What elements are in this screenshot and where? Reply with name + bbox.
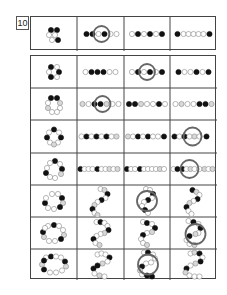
black-bead-icon — [44, 135, 49, 140]
white-bead-icon — [57, 161, 62, 166]
gray-bead-icon — [115, 166, 120, 171]
chain-option-cell[interactable] — [80, 96, 121, 112]
molecule-cell — [46, 64, 61, 79]
black-bead-icon — [132, 101, 137, 106]
molecule-cell — [45, 95, 62, 114]
white-bead-icon — [56, 130, 61, 135]
black-bead-icon — [156, 101, 161, 106]
chain-option-cell[interactable] — [137, 186, 157, 215]
white-bead-icon — [60, 227, 65, 232]
white-bead-icon — [130, 134, 135, 139]
white-bead-icon — [46, 238, 51, 243]
white-bead-icon — [187, 273, 192, 278]
chain-option-cell[interactable] — [138, 219, 157, 247]
chain-option-cell[interactable] — [173, 101, 214, 106]
white-bead-icon — [54, 74, 59, 79]
white-bead-icon — [56, 223, 61, 228]
gray-bead-icon — [192, 134, 197, 139]
black-bead-icon — [135, 31, 140, 36]
black-bead-icon — [95, 69, 100, 74]
chain-option-cell[interactable] — [78, 166, 120, 171]
white-bead-icon — [191, 101, 196, 106]
black-bead-icon — [194, 69, 199, 74]
gray-bead-icon — [80, 101, 85, 106]
white-bead-icon — [59, 268, 64, 273]
black-bead-icon — [176, 69, 181, 74]
chain-option-cell[interactable] — [84, 26, 119, 42]
black-bead-icon — [62, 259, 67, 264]
chain-option-cell[interactable] — [175, 31, 212, 36]
black-bead-icon — [48, 27, 53, 32]
black-bead-icon — [172, 134, 177, 139]
black-bead-icon — [48, 64, 53, 69]
white-bead-icon — [191, 31, 196, 36]
chain-option-cell[interactable] — [129, 31, 164, 36]
chain-option-cell[interactable] — [137, 250, 158, 279]
chain-option-cell[interactable] — [184, 187, 202, 216]
chain-option-cell[interactable] — [176, 69, 211, 74]
gray-bead-icon — [57, 100, 62, 105]
chain-option-cell[interactable] — [90, 186, 110, 217]
white-bead-icon — [47, 270, 52, 275]
black-bead-icon — [145, 134, 150, 139]
black-bead-icon — [58, 135, 63, 140]
black-bead-icon — [48, 95, 53, 100]
chain-option-cell[interactable] — [79, 134, 119, 139]
white-bead-icon — [186, 31, 191, 36]
gray-bead-icon — [45, 105, 50, 110]
gray-bead-icon — [51, 142, 56, 147]
chain-option-cell[interactable] — [129, 64, 164, 80]
white-bead-icon — [45, 100, 50, 105]
chain-option-cell[interactable] — [124, 166, 166, 171]
white-bead-icon — [187, 134, 192, 139]
black-bead-icon — [52, 158, 57, 163]
white-bead-icon — [153, 31, 158, 36]
molecule-cell — [43, 158, 64, 180]
white-bead-icon — [42, 225, 47, 230]
black-bead-icon — [56, 69, 61, 74]
gray-bead-icon — [41, 234, 46, 239]
gray-bead-icon — [58, 171, 63, 176]
chain-option-cell[interactable] — [172, 128, 209, 146]
white-bead-icon — [99, 134, 104, 139]
white-bead-icon — [49, 37, 54, 42]
white-bead-icon — [47, 174, 52, 179]
white-bead-icon — [53, 270, 58, 275]
white-bead-icon — [116, 101, 121, 106]
chain-option-cell[interactable] — [91, 219, 111, 247]
reference-row — [30, 16, 216, 50]
white-bead-icon — [150, 101, 155, 106]
white-bead-icon — [43, 195, 48, 200]
chain-option-cell[interactable] — [126, 101, 167, 106]
black-bead-icon — [98, 101, 103, 106]
molecule-cell — [42, 191, 65, 211]
white-bead-icon — [52, 32, 57, 37]
black-bead-icon — [161, 134, 166, 139]
white-bead-icon — [109, 134, 114, 139]
gray-bead-icon — [149, 229, 154, 234]
black-bead-icon — [159, 31, 164, 36]
chain-option-cell[interactable] — [91, 251, 112, 279]
question-number-badge: 10 — [16, 16, 29, 30]
gray-bead-icon — [125, 134, 130, 139]
white-bead-icon — [46, 130, 51, 135]
chain-option-cell[interactable] — [183, 250, 205, 279]
gray-bead-icon — [193, 261, 198, 266]
white-bead-icon — [141, 69, 146, 74]
chain-option-cell[interactable] — [184, 218, 206, 247]
black-bead-icon — [104, 134, 109, 139]
black-bead-icon — [147, 69, 152, 74]
black-bead-icon — [51, 222, 56, 227]
chain-option-cell[interactable] — [83, 69, 118, 74]
black-bead-icon — [175, 31, 180, 36]
chain-option-cell[interactable] — [125, 134, 166, 139]
white-bead-icon — [196, 31, 201, 36]
chain-option-cell[interactable] — [171, 160, 215, 178]
white-bead-icon — [197, 274, 202, 279]
white-bead-icon — [129, 31, 134, 36]
black-bead-icon — [197, 101, 202, 106]
black-bead-icon — [42, 200, 47, 205]
gray-bead-icon — [97, 273, 102, 278]
white-bead-icon — [155, 134, 160, 139]
black-bead-icon — [54, 27, 59, 32]
